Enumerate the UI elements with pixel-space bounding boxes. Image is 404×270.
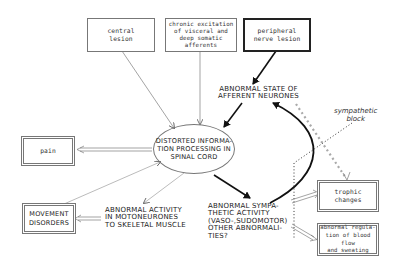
abnormal-sympathetic-label: ABNORMAL SYMPA- THETIC ACTIVITY (VASO-,S… bbox=[208, 203, 288, 240]
arrow-sympathetic-to-regulation bbox=[292, 224, 314, 237]
trophic-changes-box: trophic changes bbox=[317, 180, 379, 212]
abnormal-regulation-label: abnormal regula- tion of blood flow and … bbox=[320, 224, 376, 254]
peripheral-nerve-lesion-label: peripheral nerve lesion bbox=[254, 27, 301, 42]
arrow-central-to-processing bbox=[122, 51, 174, 128]
peripheral-nerve-lesion-box: peripheral nerve lesion bbox=[243, 18, 311, 52]
movement-disorders-label: MOVEMENT DISORDERS bbox=[29, 210, 69, 228]
arrow-abnormal-state-to-processing bbox=[224, 103, 242, 127]
pain-box: pain bbox=[21, 136, 75, 166]
arrow-sympathetic-to-trophic bbox=[291, 192, 316, 200]
pain-label: pain bbox=[40, 147, 56, 155]
distorted-processing-ellipse: DISTORTED INFORMA- TION PROCESSING IN SP… bbox=[153, 124, 235, 174]
central-lesion-box: central lesion bbox=[87, 18, 155, 52]
abnormal-motoneurones-label: ABNORMAL ACTIVITY IN MOTONEURONES TO SKE… bbox=[105, 207, 186, 229]
arrow-processing-to-sympathetic bbox=[214, 175, 250, 198]
arrow-processing-to-motoneurones bbox=[144, 173, 184, 203]
chronic-excitation-box: chronic excitation of visceral and deep … bbox=[165, 18, 237, 52]
movement-disorders-box: MOVEMENT DISORDERS bbox=[22, 203, 76, 234]
distorted-processing-label: DISTORTED INFORMA- TION PROCESSING IN SP… bbox=[156, 137, 232, 161]
trophic-changes-label: trophic changes bbox=[334, 188, 361, 203]
arrow-sympathetic-to-abnormal-state bbox=[270, 103, 314, 203]
sympathetic-block-label: sympathetic block bbox=[334, 107, 377, 123]
abnormal-state-label: ABNORMAL STATE OF AFFERENT NEURONES bbox=[218, 86, 299, 101]
central-lesion-label: central lesion bbox=[107, 27, 134, 42]
arrow-processing-to-movement bbox=[64, 162, 160, 204]
abnormal-regulation-box: abnormal regula- tion of blood flow and … bbox=[317, 223, 379, 256]
chronic-excitation-label: chronic excitation of visceral and deep … bbox=[169, 21, 234, 49]
arrow-peripheral-to-abnormal-state bbox=[253, 51, 276, 84]
